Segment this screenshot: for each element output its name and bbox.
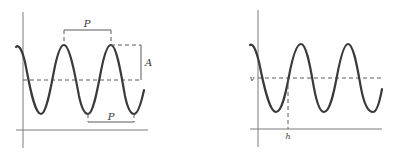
- left-amplitude-label: A: [144, 57, 152, 68]
- right-midline-label: v: [250, 74, 255, 83]
- right-figure: v h: [250, 10, 382, 147]
- left-period-top-label: P: [83, 18, 91, 29]
- left-figure: P A P: [16, 12, 152, 148]
- right-shift-label: h: [285, 132, 290, 141]
- diagram-stage: P A P v h: [0, 0, 401, 152]
- left-period-bottom-label: P: [107, 111, 115, 122]
